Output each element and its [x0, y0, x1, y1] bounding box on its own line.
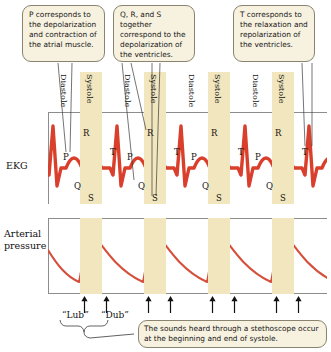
systole-band-ekg	[80, 112, 102, 204]
systole-band-ekg	[208, 112, 230, 204]
wave-label-s: S	[280, 193, 286, 203]
cycle-phase-systole: Systole	[149, 74, 158, 103]
ekg-axis-title: EKG	[6, 160, 28, 172]
wave-label-q: Q	[266, 181, 273, 191]
arterial-pressure-axis-title-line1: Arterial	[4, 228, 46, 240]
heart-sound-arrow	[209, 296, 216, 313]
first-heart-sound-label: “Lub”	[62, 310, 89, 320]
heart-sound-arrow	[145, 296, 152, 313]
callout-heart-sounds: The sounds heard through a stethoscope o…	[138, 320, 327, 348]
wave-label-t: T	[238, 147, 244, 157]
cycle-phase-systole: Systole	[85, 74, 94, 103]
second-heart-sound-label: “Dub”	[101, 310, 129, 320]
callout-t-wave-text: T corresponds to the relaxation and repo…	[240, 10, 309, 50]
cycle-phase-systole: Systole	[213, 74, 222, 103]
wave-label-p: P	[255, 152, 261, 162]
callout-qrs-complex-text: Q, R, and S together correspond to the d…	[120, 10, 189, 60]
arterial-pressure-axis-title-line2: pressure	[4, 240, 46, 252]
wave-label-s: S	[216, 193, 222, 203]
wave-label-p: P	[191, 152, 197, 162]
wave-label-r: R	[275, 128, 281, 138]
callout-p-wave: P corresponds to the depolarization and …	[22, 5, 105, 62]
callout-qrs-complex: Q, R, and S together correspond to the d…	[113, 5, 195, 62]
ekg-axis-title-text: EKG	[6, 160, 28, 171]
figure-canvas: P corresponds to the depolarization and …	[0, 0, 331, 352]
cycle-phase-diastole: Diastole	[59, 74, 68, 107]
heart-sound-arrow	[295, 296, 302, 313]
heart-sound-brace	[60, 320, 134, 338]
systole-band-ekg	[272, 112, 294, 204]
wave-label-q: Q	[202, 181, 209, 191]
cycle-phase-diastole: Diastole	[123, 74, 132, 107]
wave-label-q: Q	[74, 181, 81, 191]
wave-label-s: S	[88, 193, 94, 203]
callout-p-wave-text: P corresponds to the depolarization and …	[29, 10, 99, 50]
wave-label-q: Q	[138, 181, 145, 191]
cycle-phase-diastole: Diastole	[187, 74, 196, 107]
wave-label-p: P	[63, 152, 69, 162]
wave-label-t: T	[302, 147, 308, 157]
arterial-pressure-axis-title: Arterial pressure	[4, 228, 46, 251]
wave-label-r: R	[147, 128, 153, 138]
callout-t-wave: T corresponds to the relaxation and repo…	[233, 5, 315, 62]
systole-band-arterial	[144, 218, 166, 294]
callout-heart-sounds-text: The sounds heard through a stethoscope o…	[144, 324, 321, 344]
heart-sound-arrow	[167, 296, 174, 313]
cycle-phase-diastole: Diastole	[251, 74, 260, 107]
wave-label-r: R	[83, 128, 89, 138]
wave-label-p: P	[127, 152, 133, 162]
heart-sound-arrow	[273, 296, 280, 313]
systole-band-arterial	[80, 218, 102, 294]
heart-sound-arrow	[231, 296, 238, 313]
systole-band-arterial	[272, 218, 294, 294]
systole-band-ekg	[144, 112, 166, 204]
wave-label-s: S	[152, 193, 158, 203]
wave-label-t: T	[110, 147, 116, 157]
systole-band-arterial	[208, 218, 230, 294]
wave-label-r: R	[211, 128, 217, 138]
cycle-phase-systole: Systole	[277, 74, 286, 103]
wave-label-t: T	[174, 147, 180, 157]
